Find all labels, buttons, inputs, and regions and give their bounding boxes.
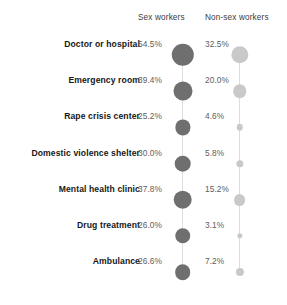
bubble-sex-workers <box>175 120 190 135</box>
value-non-sex-workers: 15.2% <box>205 184 229 194</box>
column-header-non-sex-workers: Non-sex workers <box>205 13 269 22</box>
row-label: Doctor or hospital <box>64 39 140 49</box>
bubble-sex-workers <box>174 155 191 172</box>
value-non-sex-workers: 5.8% <box>205 148 224 158</box>
row-label: Emergency room <box>68 75 140 85</box>
value-sex-workers: 30.0% <box>138 148 162 158</box>
row-label: Mental health clinic <box>59 184 140 194</box>
value-sex-workers: 37.8% <box>138 184 162 194</box>
value-non-sex-workers: 7.2% <box>205 256 224 266</box>
value-non-sex-workers: 20.0% <box>205 75 229 85</box>
bubble-non-sex-workers <box>233 84 247 98</box>
bubble-non-sex-workers <box>236 124 243 131</box>
row-label: Domestic violence shelter <box>31 148 140 158</box>
bubble-non-sex-workers <box>231 46 248 63</box>
value-sex-workers: 54.5% <box>138 39 162 49</box>
value-sex-workers: 26.0% <box>138 220 162 230</box>
bubble-comparison-chart: Sex workers Non-sex workers Doctor or ho… <box>0 0 287 305</box>
row-label: Drug treatment <box>77 220 140 230</box>
column-header-sex-workers: Sex workers <box>138 13 185 22</box>
value-sex-workers: 26.6% <box>138 256 162 266</box>
bubble-sex-workers <box>173 82 192 101</box>
bubble-non-sex-workers <box>237 233 242 238</box>
value-non-sex-workers: 32.5% <box>205 39 229 49</box>
bubble-sex-workers <box>171 44 193 66</box>
bubble-sex-workers <box>173 190 192 209</box>
bubble-non-sex-workers <box>236 160 243 167</box>
value-non-sex-workers: 4.6% <box>205 111 224 121</box>
bubble-sex-workers <box>175 264 191 280</box>
bubble-non-sex-workers <box>234 194 246 206</box>
value-non-sex-workers: 3.1% <box>205 220 224 230</box>
value-sex-workers: 39.4% <box>138 75 162 85</box>
bubble-non-sex-workers <box>235 268 243 276</box>
row-label: Rape crisis center <box>64 111 140 121</box>
bubble-sex-workers <box>175 228 190 243</box>
value-sex-workers: 25.2% <box>138 111 162 121</box>
row-label: Ambulance <box>93 256 140 266</box>
